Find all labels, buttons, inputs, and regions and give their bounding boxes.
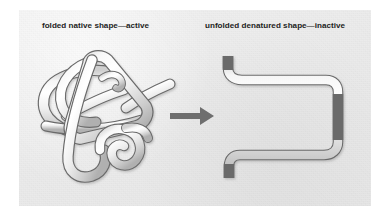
diagram-artwork: [0, 0, 382, 215]
transition-arrow: [170, 107, 214, 125]
tube-segment-inner-hook: [102, 75, 122, 89]
unfolded-denatured-protein-shape: [228, 56, 338, 178]
caption-folded-native: folded native shape—active: [13, 21, 178, 30]
caption-unfolded-denatured: unfolded denatured shape—inactive: [180, 21, 370, 30]
figure-root: folded native shape—active unfolded dena…: [0, 0, 382, 215]
folded-native-protein-shape: [43, 56, 170, 177]
